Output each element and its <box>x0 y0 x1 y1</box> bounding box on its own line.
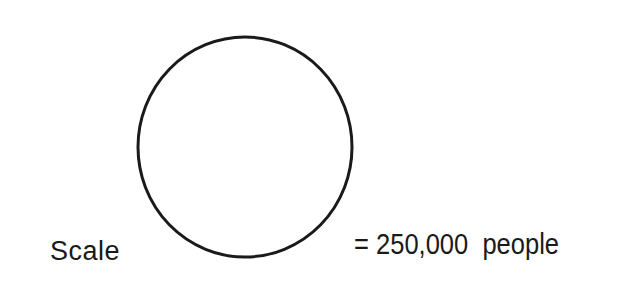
scale-value-label: = 250,000 people <box>354 228 559 261</box>
scale-label: Scale <box>50 236 120 267</box>
